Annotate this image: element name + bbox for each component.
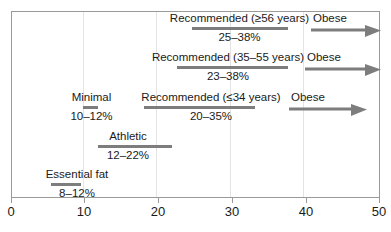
range-value: 12–22% xyxy=(76,149,180,162)
range-group-essential-fat: Essential fat 8–12% xyxy=(37,168,117,200)
x-axis: 0 10 20 30 40 50 xyxy=(0,198,391,232)
body-fat-range-chart: Recommended (≥56 years) 25–38% Obese Rec… xyxy=(0,0,391,232)
range-bar xyxy=(177,66,288,69)
range-title: Recommended (≤34 years) xyxy=(137,91,285,104)
range-value: 10–12% xyxy=(58,110,125,123)
x-tick-label-20: 20 xyxy=(151,204,165,219)
range-title: Essential fat xyxy=(37,168,117,181)
range-value: 23–38% xyxy=(148,70,308,83)
range-group-recommended-34-under: Recommended (≤34 years) 20–35% xyxy=(137,91,285,123)
range-group-minimal: Minimal 10–12% xyxy=(58,91,125,123)
x-tick-50 xyxy=(379,198,380,203)
x-tick-0 xyxy=(11,198,12,203)
obese-label: Obese xyxy=(305,51,383,64)
range-title: Recommended (≥56 years) xyxy=(166,12,313,25)
x-tick-20 xyxy=(158,198,159,203)
x-tick-30 xyxy=(232,198,233,203)
range-group-recommended-35-55: Recommended (35–55 years) 23–38% xyxy=(148,51,308,83)
x-tick-10 xyxy=(84,198,85,203)
x-tick-label-40: 40 xyxy=(299,204,313,219)
x-tick-label-30: 30 xyxy=(225,204,239,219)
obese-arrow-icon xyxy=(289,104,367,118)
range-bar xyxy=(51,183,81,186)
range-group-athletic: Athletic 12–22% xyxy=(76,130,180,162)
x-tick-label-10: 10 xyxy=(77,204,91,219)
obese-group-row-0: Obese xyxy=(311,12,383,39)
x-tick-label-50: 50 xyxy=(372,204,386,219)
range-bar xyxy=(144,106,255,109)
range-title: Minimal xyxy=(58,91,125,104)
x-tick-40 xyxy=(306,198,307,203)
obese-label: Obese xyxy=(311,12,383,25)
range-value: 20–35% xyxy=(137,110,285,123)
range-title: Athletic xyxy=(76,130,180,143)
range-bar xyxy=(192,27,288,30)
obese-arrow-icon xyxy=(311,25,381,39)
obese-group-row-1: Obese xyxy=(305,51,383,78)
range-title: Recommended (35–55 years) xyxy=(148,51,308,64)
range-value: 25–38% xyxy=(166,31,313,44)
range-bar xyxy=(83,106,98,109)
obese-label: Obese xyxy=(289,91,369,104)
obese-group-row-2: Obese xyxy=(289,91,369,118)
x-tick-label-0: 0 xyxy=(7,204,14,219)
range-group-recommended-56-plus: Recommended (≥56 years) 25–38% xyxy=(166,12,313,44)
obese-arrow-icon xyxy=(305,64,381,78)
range-bar xyxy=(98,145,172,148)
